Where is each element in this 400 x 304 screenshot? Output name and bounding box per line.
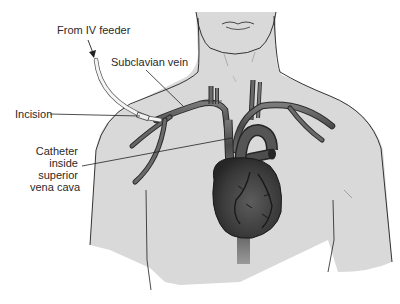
iv-feeder-label: From IV feeder: [57, 24, 130, 36]
incision-label: Incision: [15, 108, 52, 120]
catheter-label-line-2: inside: [30, 157, 78, 169]
catheter-label-line-1: Catheter: [30, 145, 78, 157]
diagram-canvas: From IV feeder Subclavian vein Incision …: [0, 0, 400, 304]
catheter-label-line-3: superior: [30, 169, 78, 181]
subclavian-vein-label: Subclavian vein: [111, 56, 188, 68]
catheter-svc-label: Catheter inside superior vena cava: [30, 145, 78, 193]
catheter-label-line-4: vena cava: [30, 181, 78, 193]
